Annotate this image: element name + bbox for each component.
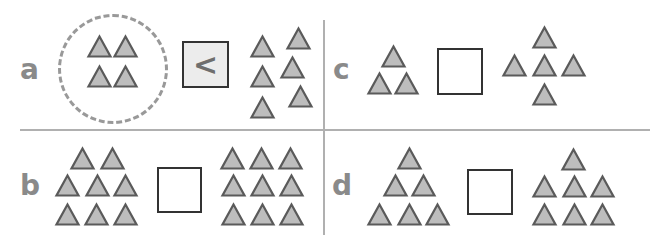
triangle-icon xyxy=(221,174,246,197)
triangle-icon xyxy=(278,147,303,170)
divider-horizontal xyxy=(20,129,650,131)
triangle-icon xyxy=(502,54,527,77)
triangle-icon xyxy=(590,175,615,198)
panel-label-b: b xyxy=(20,172,40,200)
divider-vertical xyxy=(323,20,325,235)
triangle-icon xyxy=(590,203,615,226)
panel-label-a: a xyxy=(20,56,39,84)
triangle-icon xyxy=(280,56,305,79)
triangle-icon xyxy=(288,85,313,108)
triangle-icon xyxy=(221,203,246,226)
triangle-icon xyxy=(113,35,138,58)
triangle-icon xyxy=(249,147,274,170)
triangle-icon xyxy=(425,203,450,226)
answer-box-b[interactable] xyxy=(157,167,202,213)
panel-label-d: d xyxy=(332,172,352,200)
triangle-icon xyxy=(562,175,587,198)
triangle-icon xyxy=(561,148,586,171)
triangle-icon xyxy=(394,72,419,95)
triangle-icon xyxy=(250,96,275,119)
triangle-icon xyxy=(397,147,422,170)
triangle-icon xyxy=(381,45,406,68)
triangle-icon xyxy=(87,65,112,88)
triangle-icon xyxy=(220,147,245,170)
triangle-icon xyxy=(250,203,275,226)
triangle-icon xyxy=(113,203,138,226)
answer-box-c[interactable] xyxy=(437,48,483,95)
panel-label-c: c xyxy=(333,56,350,84)
triangle-icon xyxy=(532,203,557,226)
triangle-icon xyxy=(100,147,125,170)
triangle-icon xyxy=(55,203,80,226)
triangle-icon xyxy=(84,203,109,226)
triangle-icon xyxy=(397,203,422,226)
comparison-symbol: < xyxy=(193,47,218,82)
triangle-icon xyxy=(55,174,80,197)
triangle-icon xyxy=(70,147,95,170)
triangle-icon xyxy=(87,35,112,58)
triangle-icon xyxy=(113,65,138,88)
triangle-icon xyxy=(532,83,557,106)
triangle-icon xyxy=(367,203,392,226)
answer-box-a[interactable]: < xyxy=(182,41,229,88)
triangle-icon xyxy=(411,174,436,197)
triangle-icon xyxy=(532,54,557,77)
triangle-icon xyxy=(85,174,110,197)
triangle-icon xyxy=(532,175,557,198)
triangle-icon xyxy=(250,65,275,88)
triangle-icon xyxy=(383,174,408,197)
answer-box-d[interactable] xyxy=(467,169,513,215)
triangle-icon xyxy=(367,72,392,95)
triangle-icon xyxy=(286,27,311,50)
triangle-icon xyxy=(250,35,275,58)
triangle-icon xyxy=(561,54,586,77)
triangle-icon xyxy=(279,203,304,226)
triangle-icon xyxy=(113,174,138,197)
triangle-icon xyxy=(562,203,587,226)
triangle-icon xyxy=(250,174,275,197)
triangle-icon xyxy=(532,26,557,49)
triangle-icon xyxy=(279,174,304,197)
